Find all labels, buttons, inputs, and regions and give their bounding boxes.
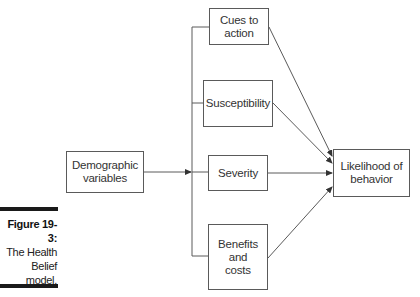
node-label: Cues to bbox=[220, 14, 258, 27]
node-label: and bbox=[218, 251, 258, 264]
node-benefits-and-costs: Benefits and costs bbox=[208, 224, 268, 290]
node-label: Likelihood of bbox=[341, 160, 403, 173]
node-label: Susceptibility bbox=[206, 97, 270, 110]
node-label: Demographic bbox=[72, 159, 138, 172]
caption-line: The Health bbox=[0, 245, 57, 259]
node-severity: Severity bbox=[208, 155, 268, 191]
edge-benefits-likelihood bbox=[268, 187, 332, 258]
node-label: behavior bbox=[341, 173, 403, 186]
caption-bottom-rule bbox=[0, 284, 58, 288]
caption-top-rule bbox=[0, 207, 58, 211]
node-label: variables bbox=[72, 172, 138, 185]
edge-susceptibility-likelihood bbox=[273, 103, 332, 163]
node-cues-to-action: Cues to action bbox=[209, 8, 269, 45]
node-label: Severity bbox=[218, 167, 258, 180]
edge-cues-likelihood bbox=[269, 27, 332, 156]
node-likelihood-of-behavior: Likelihood of behavior bbox=[333, 149, 410, 197]
caption-line: Belief bbox=[0, 259, 57, 273]
node-label: action bbox=[220, 27, 258, 40]
figure-label: Figure 19-3: bbox=[0, 217, 57, 245]
node-susceptibility: Susceptibility bbox=[203, 80, 273, 127]
node-demographic-variables: Demographic variables bbox=[66, 151, 144, 193]
figure-caption: Figure 19-3: The Health Belief model. bbox=[0, 217, 57, 287]
node-label: Benefits bbox=[218, 238, 258, 251]
node-label: costs bbox=[218, 264, 258, 277]
